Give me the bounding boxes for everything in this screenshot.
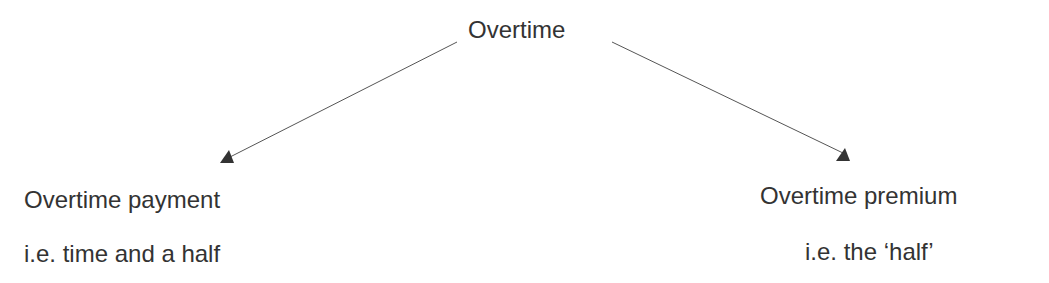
arrow-left — [230, 42, 457, 157]
arrow-right — [612, 42, 843, 153]
child-left-subtitle: i.e. time and a half — [24, 242, 220, 266]
root-node: Overtime — [468, 18, 565, 42]
child-right-subtitle: i.e. the ‘half’ — [805, 240, 934, 264]
arrowhead-right-icon — [836, 148, 850, 161]
child-right-title: Overtime premium — [760, 184, 957, 208]
child-left-title: Overtime payment — [24, 188, 220, 212]
